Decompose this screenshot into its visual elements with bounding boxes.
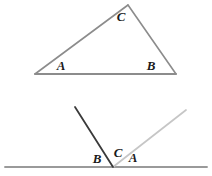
angle-label-b: B [92,151,102,166]
triangle-panel: A B C [35,5,176,74]
angle-label-a: A [128,150,138,165]
angles-on-line-panel: B C A [5,107,207,167]
angle-label-c: C [114,145,123,160]
triangle-vertex-label-c: C [117,9,126,24]
triangle-edge-ac [35,5,128,74]
triangle-vertex-label-b: B [146,58,156,73]
geometry-figure: A B C B C A [0,0,212,176]
triangle-vertex-label-a: A [56,58,66,73]
geometry-canvas: A B C B C A [0,0,212,176]
light-ray [113,110,186,167]
